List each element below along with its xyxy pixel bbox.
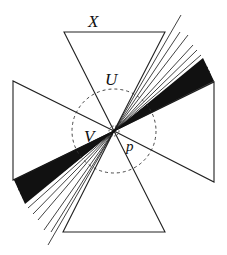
fan-line [44, 131, 114, 230]
label-x: X [87, 12, 99, 31]
label-p: p [125, 138, 134, 154]
fan-dense-wedge-upper-right [114, 58, 214, 131]
label-u: U [105, 70, 119, 89]
center-point [112, 129, 115, 132]
fan-dense-wedge-lower-left [14, 131, 114, 204]
diagram-canvas: X U V p [0, 0, 227, 255]
